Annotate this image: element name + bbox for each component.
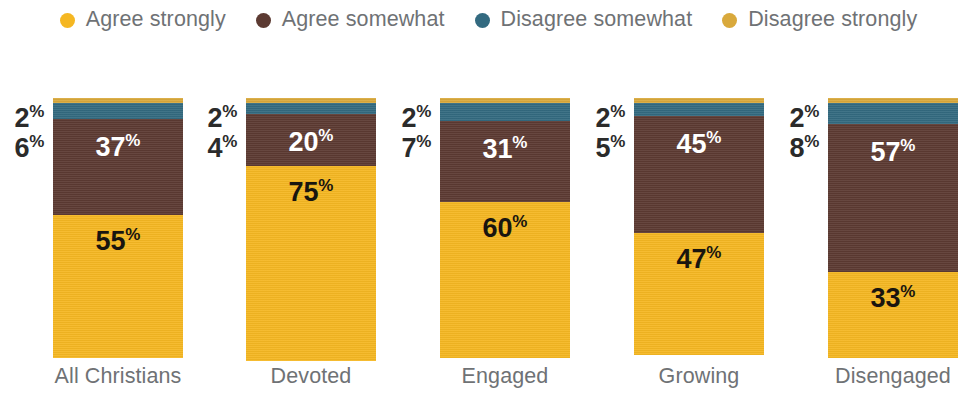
category-axis-label: All Christians <box>19 366 217 388</box>
bar-segment[interactable]: 57% <box>828 124 958 272</box>
bar-group: 2%4%20%75%Devoted <box>246 55 376 398</box>
legend-item-label: Agree strongly <box>86 9 226 31</box>
segment-value-label: 57% <box>871 124 916 166</box>
segment-value-label: 31% <box>483 121 528 163</box>
segment-value-label: 55% <box>96 215 141 255</box>
stacked-bar[interactable]: 2%7%31%60% <box>440 98 570 358</box>
outside-value-label: 4% <box>207 133 237 163</box>
segment-value-label: 33% <box>871 272 916 312</box>
legend-dot-icon <box>475 13 490 28</box>
bar-segment[interactable]: 37% <box>53 119 183 215</box>
segment-value-label: 60% <box>483 202 528 242</box>
percent-sign: % <box>900 282 915 301</box>
legend-item-label: Agree somewhat <box>282 9 445 31</box>
segment-value-number: 75 <box>289 177 319 207</box>
legend-item-label: Disagree strongly <box>748 9 917 31</box>
bar-segment[interactable]: 31% <box>440 121 570 202</box>
stacked-bar[interactable]: 2%8%57%33% <box>828 98 958 358</box>
outside-value-label: 2% <box>14 103 44 133</box>
percent-sign: % <box>610 132 625 151</box>
legend-item[interactable]: Disagree strongly <box>722 9 917 31</box>
outside-value-label: 8% <box>789 133 819 163</box>
stacked-bar[interactable]: 2%5%45%47% <box>634 98 764 358</box>
chart-plot-area: 2%6%37%55%All Christians2%4%20%75%Devote… <box>0 55 977 398</box>
percent-sign: % <box>318 176 333 195</box>
category-axis-label: Growing <box>600 366 798 388</box>
stacked-bar[interactable]: 2%4%20%75% <box>246 98 376 358</box>
stacked-bar[interactable]: 2%6%37%55% <box>53 98 183 358</box>
outside-value-number: 7 <box>401 133 416 163</box>
category-axis-label: Devoted <box>212 366 410 388</box>
outside-value-label: 7% <box>401 133 431 163</box>
percent-sign: % <box>512 212 527 231</box>
bar-segment[interactable] <box>53 103 183 119</box>
bar-segment[interactable]: 33% <box>828 272 958 358</box>
percent-sign: % <box>222 132 237 151</box>
segment-value-number: 20 <box>289 127 319 157</box>
segment-value-number: 37 <box>96 132 126 162</box>
segment-value-number: 45 <box>677 129 707 159</box>
outside-value-label: 2% <box>401 103 431 133</box>
percent-sign: % <box>416 102 431 121</box>
percent-sign: % <box>318 126 333 145</box>
bar-segment[interactable] <box>828 103 958 124</box>
percent-sign: % <box>706 128 721 147</box>
chart-legend: Agree stronglyAgree somewhatDisagree som… <box>0 0 977 40</box>
percent-sign: % <box>706 243 721 262</box>
bar-segment[interactable] <box>246 103 376 113</box>
percent-sign: % <box>29 102 44 121</box>
segment-value-label: 45% <box>677 116 722 158</box>
segment-value-label: 37% <box>96 119 141 161</box>
percent-sign: % <box>512 133 527 152</box>
bar-segment[interactable]: 55% <box>53 215 183 358</box>
category-axis-label: Disengaged <box>794 366 977 388</box>
percent-sign: % <box>804 102 819 121</box>
bar-segment[interactable]: 60% <box>440 202 570 358</box>
bar-group: 2%7%31%60%Engaged <box>440 55 570 398</box>
percent-sign: % <box>804 132 819 151</box>
percent-sign: % <box>125 225 140 244</box>
legend-dot-icon <box>722 13 737 28</box>
segment-value-number: 31 <box>483 134 513 164</box>
category-axis-label: Engaged <box>406 366 604 388</box>
outside-value-number: 2 <box>789 103 804 133</box>
percent-sign: % <box>900 136 915 155</box>
outside-value-number: 2 <box>595 103 610 133</box>
outside-value-number: 8 <box>789 133 804 163</box>
legend-item[interactable]: Disagree somewhat <box>475 9 693 31</box>
legend-item[interactable]: Agree somewhat <box>256 9 445 31</box>
segment-value-number: 57 <box>871 137 901 167</box>
outside-value-labels: 2%4% <box>207 103 237 162</box>
outside-value-number: 2 <box>401 103 416 133</box>
bar-segment[interactable] <box>634 103 764 116</box>
bar-segment[interactable]: 20% <box>246 114 376 166</box>
percent-sign: % <box>416 132 431 151</box>
outside-value-label: 5% <box>595 133 625 163</box>
outside-value-label: 6% <box>14 133 44 163</box>
bar-segment[interactable]: 47% <box>634 233 764 355</box>
bar-group: 2%8%57%33%Disengaged <box>828 55 958 398</box>
outside-value-number: 2 <box>14 103 29 133</box>
segment-value-label: 75% <box>289 166 334 206</box>
bar-segment[interactable]: 45% <box>634 116 764 233</box>
segment-value-number: 55 <box>96 226 126 256</box>
outside-value-number: 6 <box>14 133 29 163</box>
segment-value-number: 60 <box>483 213 513 243</box>
bar-segment[interactable]: 75% <box>246 166 376 361</box>
outside-value-label: 2% <box>595 103 625 133</box>
legend-item-label: Disagree somewhat <box>501 9 693 31</box>
percent-sign: % <box>222 102 237 121</box>
outside-value-label: 2% <box>207 103 237 133</box>
legend-dot-icon <box>60 13 75 28</box>
outside-value-labels: 2%8% <box>789 103 819 162</box>
bar-segment[interactable] <box>440 103 570 121</box>
outside-value-number: 4 <box>207 133 222 163</box>
percent-sign: % <box>125 131 140 150</box>
outside-value-number: 5 <box>595 133 610 163</box>
outside-value-labels: 2%7% <box>401 103 431 162</box>
legend-dot-icon <box>256 13 271 28</box>
bar-group: 2%5%45%47%Growing <box>634 55 764 398</box>
legend-item[interactable]: Agree strongly <box>60 9 226 31</box>
bar-group: 2%6%37%55%All Christians <box>53 55 183 398</box>
segment-value-label: 20% <box>289 114 334 156</box>
